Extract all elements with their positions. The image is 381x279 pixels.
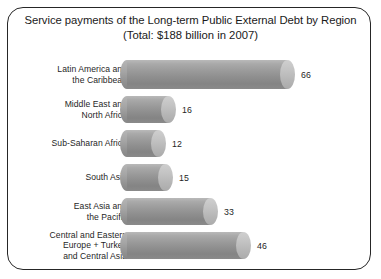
chart-bar-row: Latin America andthe Caribbean66 xyxy=(0,60,381,89)
category-label-line: and Central Asia xyxy=(9,251,127,261)
bar-end-cap xyxy=(280,60,295,89)
category-label-line: the Pacific xyxy=(9,212,127,222)
bar-value-label: 16 xyxy=(182,105,192,115)
bar-end-cap xyxy=(203,198,218,225)
bar-end-cap xyxy=(161,96,176,123)
category-label-line: North Africa xyxy=(9,110,127,120)
category-label: South Asia xyxy=(9,172,127,182)
bar-cylinder xyxy=(127,232,243,259)
category-label-line: South Asia xyxy=(9,172,127,182)
chart-bar-row: Central and EasternEurope + Turkeyand Ce… xyxy=(0,232,381,259)
category-label-line: Middle East and xyxy=(9,99,127,109)
category-label: Middle East andNorth Africa xyxy=(9,99,127,119)
bar-cylinder xyxy=(127,164,165,191)
category-label-line: Europe + Turkey xyxy=(9,240,127,250)
chart-figure: Service payments of the Long-term Public… xyxy=(0,0,381,279)
chart-bar-row: Sub-Saharan Africa12 xyxy=(0,130,381,157)
bar-value-label: 66 xyxy=(301,70,311,80)
chart-bar-row: South Asia15 xyxy=(0,164,381,191)
chart-bar-row: East Asia andthe Pacific33 xyxy=(0,198,381,225)
category-label: East Asia andthe Pacific xyxy=(9,201,127,221)
bar-cylinder xyxy=(127,96,168,123)
bar-body xyxy=(127,60,287,89)
bar-body xyxy=(127,198,210,225)
category-label-line: Central and Eastern xyxy=(9,230,127,240)
bar-value-label: 15 xyxy=(179,173,189,183)
category-label-line: Latin America and xyxy=(9,64,127,74)
bar-cylinder xyxy=(127,130,158,157)
bar-cylinder xyxy=(127,60,287,89)
category-label: Sub-Saharan Africa xyxy=(9,138,127,148)
chart-bar-row: Middle East andNorth Africa16 xyxy=(0,96,381,123)
bar-end-cap xyxy=(236,232,251,259)
category-label-line: Sub-Saharan Africa xyxy=(9,138,127,148)
bar-value-label: 12 xyxy=(172,139,182,149)
category-label: Latin America andthe Caribbean xyxy=(9,64,127,84)
bar-end-cap xyxy=(151,130,166,157)
bar-end-cap xyxy=(158,164,173,191)
bar-value-label: 46 xyxy=(257,241,267,251)
category-label-line: East Asia and xyxy=(9,201,127,211)
chart-plot-area: Latin America andthe Caribbean66Middle E… xyxy=(0,0,381,279)
bar-cylinder xyxy=(127,198,210,225)
category-label: Central and EasternEurope + Turkeyand Ce… xyxy=(9,230,127,261)
bar-value-label: 33 xyxy=(224,207,234,217)
bar-body xyxy=(127,232,243,259)
category-label-line: the Caribbean xyxy=(9,75,127,85)
